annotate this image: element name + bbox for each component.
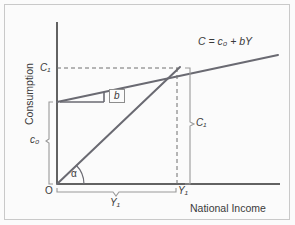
c0-bracket — [46, 102, 53, 184]
alpha-angle-label: α — [71, 169, 77, 179]
c0-bracket-label: c₀ — [30, 135, 39, 145]
consumption-function-figure: Consumption National Income O C = c₀ + b… — [0, 0, 295, 225]
Y1-bracket — [57, 188, 176, 196]
bottom-bracket-label-y1: Y₁ — [110, 198, 120, 208]
consumption-equation-label: C = c₀ + bY — [198, 36, 252, 47]
slope-label-b: b — [109, 89, 125, 103]
y-axis-title: Consumption — [24, 63, 35, 125]
forty-five-degree-ray — [57, 67, 180, 184]
C1-bracket — [185, 68, 194, 184]
right-bracket-label-c1: C₁ — [196, 118, 206, 128]
alpha-angle-arc — [76, 165, 84, 184]
origin-label: O — [45, 186, 53, 196]
x-tick-label-y1: Y₁ — [178, 186, 188, 196]
x-axis-title: National Income — [190, 203, 266, 214]
y-tick-label-c1: C₁ — [40, 63, 50, 73]
